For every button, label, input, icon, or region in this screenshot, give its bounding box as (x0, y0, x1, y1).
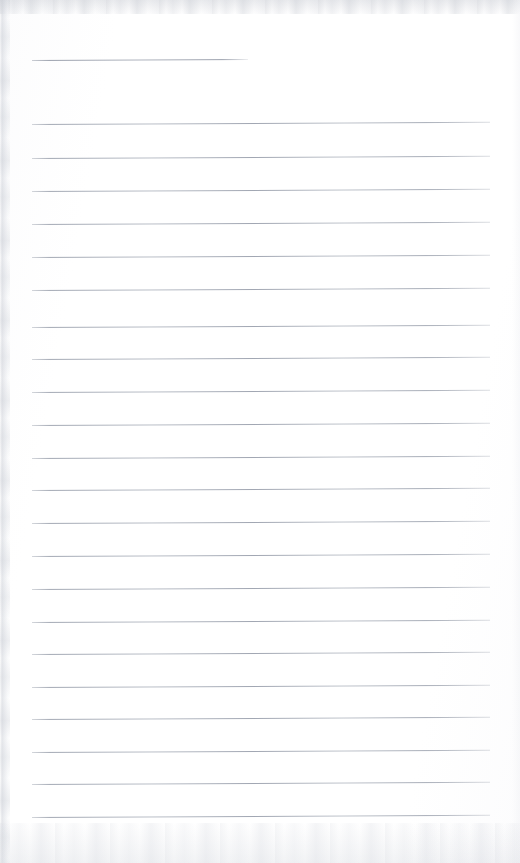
rule-line-1 (32, 59, 248, 61)
rule-line-14 (32, 521, 490, 524)
rule-line-8 (32, 325, 490, 328)
rule-line-10 (32, 390, 490, 393)
rule-line-15 (32, 554, 490, 557)
scanned-page (0, 0, 520, 863)
rule-line-4 (32, 189, 490, 192)
rule-line-21 (32, 750, 490, 753)
rule-line-18 (32, 652, 490, 655)
rule-line-12 (32, 456, 490, 459)
rule-line-19 (32, 685, 490, 688)
rule-line-6 (32, 255, 490, 258)
rule-line-7 (32, 288, 490, 291)
rule-line-9 (32, 357, 490, 360)
rule-line-3 (32, 156, 490, 159)
rule-line-22 (32, 782, 490, 785)
rule-line-17 (32, 620, 490, 623)
ruled-lines-layer (0, 0, 520, 863)
rule-line-20 (32, 717, 490, 720)
rule-line-13 (32, 488, 490, 491)
rule-line-5 (32, 222, 490, 225)
rule-line-16 (32, 587, 490, 590)
rule-line-2 (32, 122, 490, 125)
rule-line-11 (32, 423, 490, 426)
rule-line-23 (32, 815, 490, 818)
